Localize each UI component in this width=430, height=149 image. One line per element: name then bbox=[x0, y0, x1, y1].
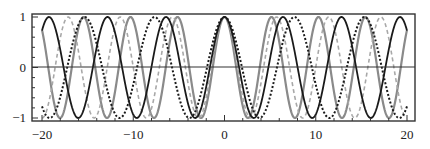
chart: −20−1001020−101 bbox=[0, 0, 430, 149]
y-tick-label: 1 bbox=[20, 9, 27, 24]
x-tick-label: 20 bbox=[401, 127, 414, 142]
x-tick-label: 0 bbox=[221, 127, 228, 142]
y-tick-label: 0 bbox=[20, 60, 27, 75]
x-tick-label: −10 bbox=[123, 127, 143, 142]
x-tick-label: 10 bbox=[309, 127, 322, 142]
x-tick-label: −20 bbox=[32, 127, 52, 142]
y-tick-label: −1 bbox=[12, 110, 26, 125]
